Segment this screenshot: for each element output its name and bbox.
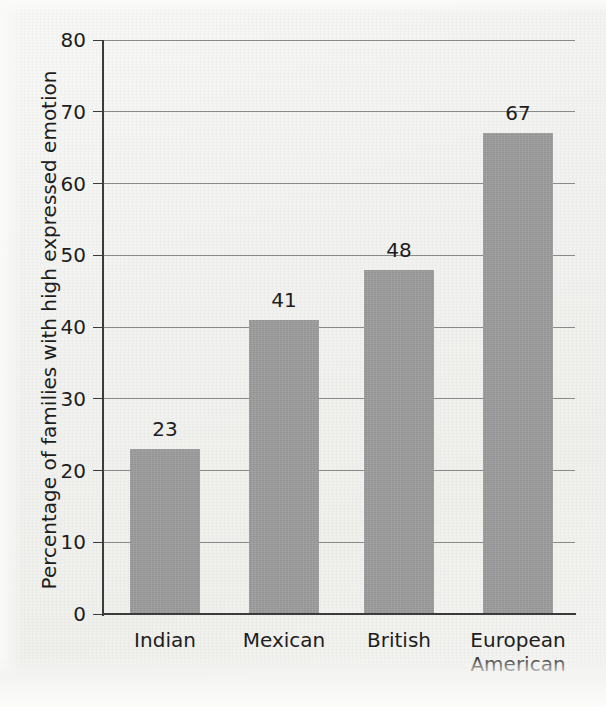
y-axis-tick-label: 70 bbox=[42, 102, 86, 122]
bar-value-label: 48 bbox=[359, 240, 439, 260]
bar-value-label: 23 bbox=[125, 419, 205, 439]
bar[interactable] bbox=[364, 270, 434, 614]
y-axis-tick-label: 10 bbox=[42, 532, 86, 552]
bar[interactable] bbox=[249, 320, 319, 614]
x-axis-category-label-line: American bbox=[448, 652, 588, 676]
y-axis-tick-label: 30 bbox=[42, 389, 86, 409]
y-axis-tick-label: 60 bbox=[42, 174, 86, 194]
bar-chart: Percentage of families with high express… bbox=[0, 0, 606, 707]
y-axis-tick-label: 80 bbox=[42, 30, 86, 50]
y-axis-tick-label: 20 bbox=[42, 461, 86, 481]
y-axis-tick-labels: 01020304050607080 bbox=[34, 0, 86, 707]
x-axis-category-label-line: European bbox=[448, 628, 588, 652]
bar-value-label: 67 bbox=[478, 103, 558, 123]
x-axis-line bbox=[102, 613, 576, 615]
y-axis-tick-label: 0 bbox=[42, 604, 86, 624]
plot-area bbox=[103, 40, 575, 614]
bar[interactable] bbox=[483, 133, 553, 614]
gridline bbox=[103, 40, 575, 41]
y-axis-line bbox=[102, 40, 104, 616]
y-axis-tick-label: 40 bbox=[42, 317, 86, 337]
chart-page: Percentage of families with high express… bbox=[0, 0, 606, 707]
x-axis-category-label: EuropeanAmerican bbox=[448, 628, 588, 676]
bar[interactable] bbox=[130, 449, 200, 614]
bar-value-label: 41 bbox=[244, 290, 324, 310]
y-axis-tick-label: 50 bbox=[42, 245, 86, 265]
